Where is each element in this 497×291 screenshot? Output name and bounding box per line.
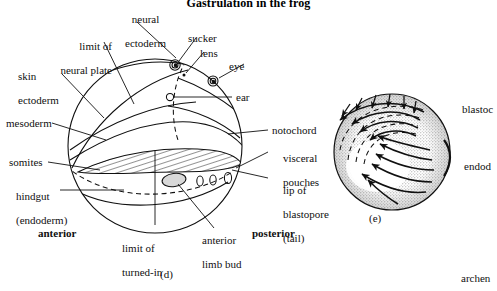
- figure-page: Gastrulation in the frog: [0, 0, 497, 291]
- label-ear: ear: [236, 91, 249, 103]
- ear-shape: [166, 93, 173, 100]
- label-mesoderm: mesoderm: [6, 117, 52, 129]
- label-lens: lens: [200, 47, 218, 59]
- label-limit-turned-in-material: limit of turned-in material: [111, 230, 162, 291]
- label-blastocoel: blastoc: [462, 103, 493, 115]
- label-anterior: anterior: [38, 227, 76, 239]
- label-lip-blastopore-line1: lip of: [283, 184, 307, 196]
- lens-shape: [183, 74, 186, 77]
- label-hindgut-line2: (endoderm): [16, 214, 67, 226]
- label-posterior: posterior: [252, 227, 295, 239]
- label-neural-ectoderm-line1: neural: [132, 13, 159, 25]
- label-anterior-limb-bud: anterior limb bud: [191, 222, 241, 282]
- label-neural-ectoderm: neural ectoderm: [108, 1, 172, 61]
- label-anterior-limb-bud-line1: anterior: [202, 234, 236, 246]
- figure-caption-d: (d): [160, 268, 173, 280]
- label-endoderm: endod: [464, 160, 491, 172]
- label-hindgut-line1: hindgut: [16, 190, 50, 202]
- label-limit-neural-plate-line2: neural plate: [60, 64, 112, 76]
- figure-caption-e: (e): [369, 212, 381, 224]
- gastrula-section-figure: [334, 94, 450, 210]
- label-skin-ectoderm: skin ectoderm: [7, 58, 59, 118]
- label-limit-neural-plate-line1: limit of: [79, 40, 112, 52]
- label-anterior-limb-bud-line2: limb bud: [202, 258, 241, 270]
- label-archenteron: archen: [461, 272, 490, 284]
- label-eye: eye: [229, 60, 244, 72]
- label-skin-ectoderm-line2: ectoderm: [18, 94, 59, 106]
- label-lip-blastopore-line2: blastopore: [283, 208, 329, 220]
- label-turned-in-line2: turned-in: [122, 266, 162, 278]
- label-lip-of-blastopore: lip of blastopore (tail): [272, 172, 329, 256]
- label-notochord: notochord: [272, 124, 317, 136]
- label-somites: somites: [9, 156, 43, 168]
- label-turned-in-line1: limit of: [122, 242, 155, 254]
- label-skin-ectoderm-line1: skin: [18, 70, 36, 82]
- label-neural-ectoderm-line2: ectoderm: [125, 37, 166, 49]
- label-visceral-pouches-line1: visceral: [283, 152, 317, 164]
- label-sucker: sucker: [188, 32, 217, 44]
